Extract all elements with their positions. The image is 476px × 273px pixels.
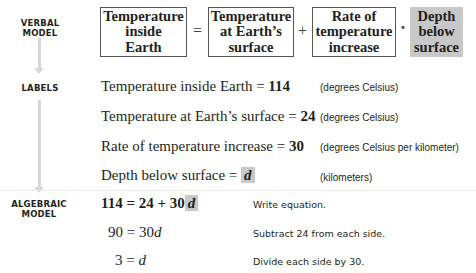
verbal-model-label: Verbal Model bbox=[14, 18, 66, 38]
equals-operator: = bbox=[193, 22, 202, 40]
algebraic-label-line2: Model bbox=[6, 209, 72, 219]
times-operator: · bbox=[400, 18, 406, 39]
section-divider bbox=[0, 190, 476, 191]
equation-variable-highlight: d bbox=[185, 195, 199, 211]
label-unit-depth: (kilometers) bbox=[320, 172, 372, 183]
equation-step-1: 114 = 24 + 30d bbox=[101, 195, 198, 212]
arrow-shaft-2 bbox=[38, 100, 41, 188]
equation-step-2: 90 = 30d bbox=[108, 224, 161, 241]
label-row-depth: Depth below surface = d bbox=[101, 167, 255, 184]
equation-note-3: Divide each side by 30. bbox=[253, 256, 364, 267]
label-row-rate: Rate of temperature increase = 30 bbox=[101, 138, 304, 155]
labels-label: Labels bbox=[14, 83, 66, 93]
equation-note-2: Subtract 24 from each side. bbox=[253, 228, 385, 239]
arrow-down-icon bbox=[34, 68, 44, 74]
equation-step-3: 3 = d bbox=[115, 252, 146, 269]
label-unit-temp-inside: (degrees Celsius) bbox=[320, 82, 398, 93]
algebraic-label-line1: Algebraic bbox=[6, 199, 72, 209]
label-row-temp-inside: Temperature inside Earth = 114 bbox=[101, 78, 290, 95]
depth-variable-highlight: d bbox=[241, 167, 255, 183]
label-unit-temp-surface: (degrees Celsius) bbox=[320, 112, 398, 123]
verbal-box-temperature-surface: Temperature at Earth’s surface bbox=[208, 7, 294, 57]
verbal-box-depth: Depth below surface bbox=[410, 7, 463, 57]
plus-operator: + bbox=[298, 22, 307, 40]
verbal-box-rate-increase: Rate of temperature increase bbox=[312, 7, 396, 57]
verbal-box-temperature-inside-earth: Temperature inside Earth bbox=[100, 7, 187, 57]
arrow-shaft-1 bbox=[38, 38, 41, 68]
verbal-label-line2: Model bbox=[14, 28, 66, 38]
equation-note-1: Write equation. bbox=[253, 199, 326, 210]
label-unit-rate: (degrees Celsius per kilometer) bbox=[320, 142, 459, 153]
label-row-temp-surface: Temperature at Earth’s surface = 24 bbox=[101, 108, 315, 125]
verbal-label-line1: Verbal bbox=[14, 18, 66, 28]
algebraic-model-label: Algebraic Model bbox=[6, 199, 72, 219]
